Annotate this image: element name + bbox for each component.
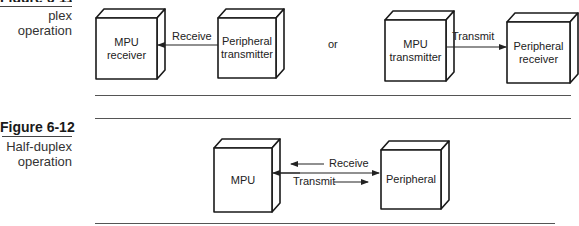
transmit-label: Transmit [452,30,494,42]
peripheral-receiver-label: Peripheralreceiver [507,22,570,83]
half-duplex-transmit-label: Transmit [293,175,335,187]
mpu-label: MPU [214,148,272,212]
mpu-receiver-label: MPUreceiver [96,18,157,79]
receive-label: Receive [172,30,212,42]
or-separator: or [328,38,338,50]
peripheral-transmitter-label: Peripheraltransmitter [218,18,276,78]
mpu-transmitter-label: MPUtransmitter [385,20,446,81]
half-duplex-receive-label: Receive [329,157,369,169]
peripheral-label: Peripheral [381,150,441,209]
